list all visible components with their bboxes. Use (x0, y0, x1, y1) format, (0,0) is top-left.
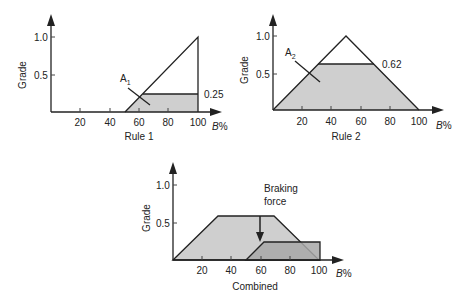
y-axis-arrow-icon (169, 162, 177, 174)
a2-label: A2 (285, 47, 296, 60)
figure: 1.0 0.5 Grade 20 40 60 80 100 B% Rule 1 … (0, 0, 469, 300)
svg-text:100: 100 (190, 117, 207, 128)
a1-shaded-region (125, 94, 198, 112)
x-axis-arrow-icon (210, 108, 222, 116)
a1-label: A1 (120, 73, 131, 86)
svg-text:80: 80 (162, 117, 174, 128)
svg-text:40: 40 (325, 116, 337, 127)
x-axis-arrow-icon (332, 256, 344, 264)
chart-rule-1: 1.0 0.5 Grade 20 40 60 80 100 B% Rule 1 … (17, 14, 228, 142)
chart-rule-2: 1.0 0.5 Grade 20 40 60 80 100 B% Rule 2 … (239, 14, 452, 142)
y-tick-05: 0.5 (34, 70, 48, 81)
x-axis-arrow-icon (432, 106, 444, 114)
clip-value-062: 0.62 (382, 59, 402, 70)
chart-title-rule-2: Rule 2 (332, 131, 361, 142)
svg-text:40: 40 (104, 117, 116, 128)
svg-text:100: 100 (311, 265, 328, 276)
svg-text:0.5: 0.5 (156, 218, 170, 229)
x-axis-unit: B% (212, 121, 228, 132)
svg-text:Grade: Grade (239, 56, 250, 84)
svg-text:B%: B% (336, 268, 352, 279)
chart-title-rule-1: Rule 1 (125, 131, 154, 142)
svg-text:1.0: 1.0 (256, 31, 270, 42)
svg-text:B%: B% (436, 120, 452, 131)
svg-text:20: 20 (296, 116, 308, 127)
y-axis-arrow-icon (47, 14, 55, 26)
svg-text:100: 100 (411, 116, 428, 127)
y-axis-label: Grade (17, 61, 28, 89)
y-tick-1: 1.0 (34, 32, 48, 43)
clip-value-025: 0.25 (204, 89, 224, 100)
braking-force-label-2: force (264, 196, 287, 207)
svg-text:60: 60 (355, 116, 367, 127)
chart-combined: 1.0 0.5 Grade 20 40 60 80 100 B% Combine… (141, 162, 352, 292)
svg-text:0.5: 0.5 (256, 69, 270, 80)
chart-title-combined: Combined (232, 281, 278, 292)
svg-text:20: 20 (196, 265, 208, 276)
svg-text:60: 60 (133, 117, 145, 128)
y-axis-arrow-icon (269, 14, 277, 26)
svg-text:20: 20 (74, 117, 86, 128)
svg-text:80: 80 (384, 116, 396, 127)
svg-text:Grade: Grade (141, 204, 152, 232)
svg-text:80: 80 (284, 265, 296, 276)
braking-force-label: Braking (264, 183, 298, 194)
svg-text:60: 60 (255, 265, 267, 276)
svg-text:1.0: 1.0 (156, 180, 170, 191)
svg-text:40: 40 (225, 265, 237, 276)
